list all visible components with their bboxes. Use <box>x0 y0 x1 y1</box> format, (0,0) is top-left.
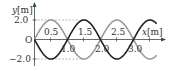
x-tick-label-3.0: 3.0 <box>128 44 143 54</box>
wave-diagram: y[m] 2.0 O −2.0 0.5 1.5 2.5 1.0 2.0 3.0 … <box>0 0 169 71</box>
x-tick-label-1.5: 1.5 <box>78 27 93 37</box>
x-axis-label: x[m] <box>142 27 163 37</box>
y-axis-arrow-icon <box>33 2 37 7</box>
y-tick-label-bottom: −2.0 <box>9 54 31 64</box>
x-tick-label-1.0: 1.0 <box>61 44 76 54</box>
x-tick-label-2.5: 2.5 <box>111 27 126 37</box>
y-tick-label-top: 2.0 <box>14 15 29 25</box>
x-tick-label-0.5: 0.5 <box>44 27 59 37</box>
x-axis-arrow-icon <box>161 38 166 42</box>
y-axis-label: y[m] <box>11 5 33 15</box>
x-tick-label-2.0: 2.0 <box>95 44 110 54</box>
origin-label: O <box>25 35 32 45</box>
